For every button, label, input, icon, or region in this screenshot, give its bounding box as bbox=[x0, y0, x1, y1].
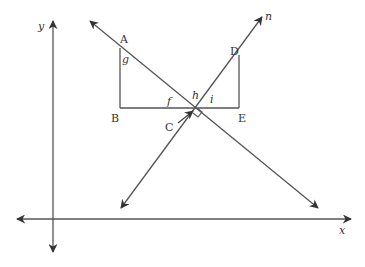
x-axis-label: x bbox=[339, 224, 346, 237]
angle-g-label: g bbox=[122, 53, 129, 66]
geometry-diagram: y x n A B C D E g f h i bbox=[0, 0, 365, 267]
point-d-label: D bbox=[230, 45, 239, 58]
y-axis-label: y bbox=[37, 20, 45, 33]
angle-i-label: i bbox=[210, 93, 214, 106]
point-e-label: E bbox=[238, 112, 246, 125]
point-a-label: A bbox=[119, 33, 129, 46]
point-b-label: B bbox=[111, 112, 119, 125]
line-ac bbox=[90, 21, 318, 208]
line-n-label: n bbox=[265, 10, 272, 23]
angle-f-label: f bbox=[166, 95, 173, 108]
point-c-label: C bbox=[165, 121, 173, 134]
angle-h-label: h bbox=[192, 89, 199, 102]
